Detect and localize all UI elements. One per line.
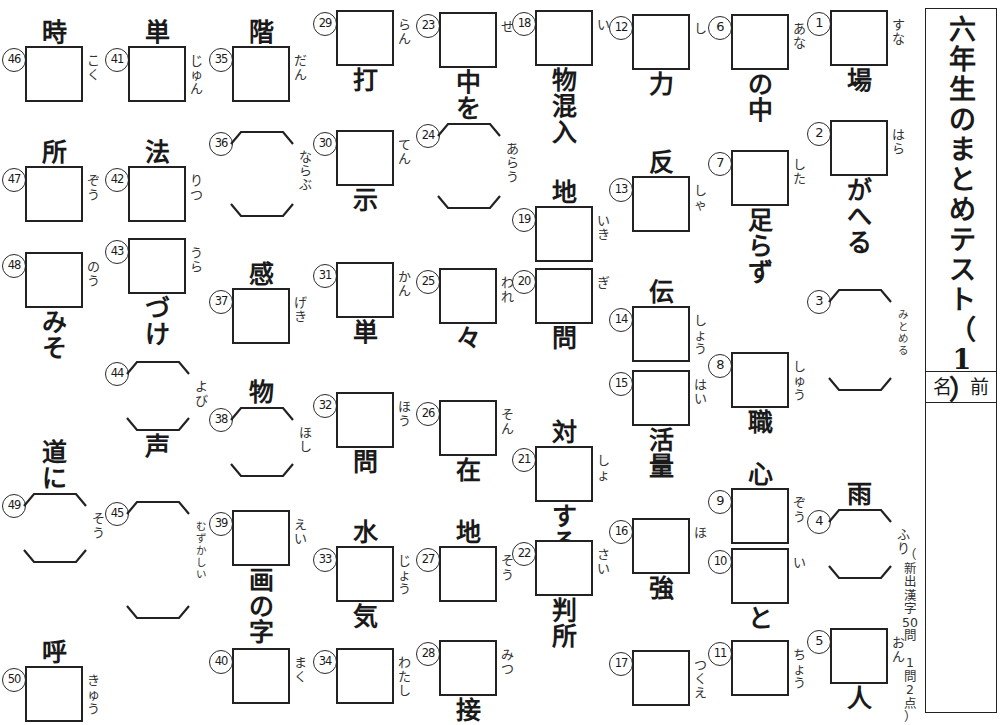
answer-box[interactable]: [731, 14, 789, 70]
reading-hint: じょう: [396, 554, 412, 596]
answer-bracket-bottom[interactable]: [229, 202, 295, 218]
reading-char: こ: [85, 54, 101, 68]
kanji-char: 階: [232, 20, 290, 46]
answer-box[interactable]: [632, 176, 690, 232]
answer-box[interactable]: [535, 446, 593, 502]
answer-box[interactable]: [232, 288, 290, 344]
answer-box[interactable]: [632, 14, 690, 70]
question-number: 48: [2, 254, 26, 278]
answer-box[interactable]: [336, 262, 394, 318]
prefix-kanji: 呼: [25, 640, 83, 666]
answer-box[interactable]: [439, 12, 497, 68]
answer-bracket-top[interactable]: [125, 360, 191, 376]
answer-bracket-bottom[interactable]: [827, 376, 893, 392]
answer-box[interactable]: [25, 252, 83, 308]
answer-box[interactable]: [336, 392, 394, 448]
reading-hint: てん: [396, 138, 412, 166]
answer-box[interactable]: [439, 268, 497, 324]
kanji-char: 場: [830, 68, 888, 94]
question-number: 5: [807, 630, 831, 654]
kanji-char: が: [830, 178, 888, 204]
answer-box[interactable]: [439, 546, 497, 602]
answer-bracket-top[interactable]: [436, 122, 502, 138]
answer-box[interactable]: [830, 10, 888, 66]
answer-box[interactable]: [128, 166, 186, 222]
answer-bracket-bottom[interactable]: [125, 416, 191, 432]
answer-bracket-top[interactable]: [827, 508, 893, 524]
kanji-char: の: [731, 72, 789, 98]
answer-box[interactable]: [632, 518, 690, 574]
question-number: 20: [512, 270, 536, 294]
answer-bracket-bottom[interactable]: [827, 564, 893, 580]
answer-bracket-bottom[interactable]: [229, 462, 295, 478]
answer-box[interactable]: [25, 666, 83, 722]
kanji-char: 呼: [25, 640, 83, 666]
answer-bracket-top[interactable]: [229, 406, 295, 422]
answer-box[interactable]: [128, 46, 186, 102]
prefix-kanji: 物: [232, 380, 290, 406]
answer-box[interactable]: [336, 130, 394, 186]
answer-bracket-top[interactable]: [125, 500, 191, 516]
answer-box[interactable]: [232, 46, 290, 102]
answer-box[interactable]: [128, 238, 186, 294]
suffix-kanji: 単: [336, 320, 394, 346]
suffix-kanji: がへる: [830, 178, 888, 256]
prefix-kanji: 時: [25, 20, 83, 46]
reading-char: と: [895, 320, 911, 332]
kanji-char: 示: [336, 188, 394, 214]
answer-box[interactable]: [439, 400, 497, 456]
answer-box[interactable]: [535, 540, 593, 596]
answer-box[interactable]: [830, 628, 888, 684]
reading-hint: きゅう: [85, 674, 101, 716]
question-number: 46: [2, 48, 26, 72]
answer-box[interactable]: [439, 640, 497, 696]
answer-box[interactable]: [632, 370, 690, 426]
answer-box[interactable]: [336, 546, 394, 602]
reading-hint: うら: [188, 246, 204, 274]
title-char: め: [926, 195, 998, 225]
scoring-note-char: 新: [901, 562, 919, 576]
answer-box[interactable]: [830, 120, 888, 176]
answer-box[interactable]: [632, 306, 690, 362]
answer-bracket-bottom[interactable]: [436, 194, 502, 210]
answer-box[interactable]: [731, 488, 789, 544]
answer-box[interactable]: [232, 648, 290, 704]
answer-box[interactable]: [25, 46, 83, 102]
name-field-label[interactable]: 名 前: [926, 371, 996, 403]
answer-bracket-bottom[interactable]: [22, 548, 88, 564]
question-number: 25: [416, 270, 440, 294]
scoring-note-char: 50: [901, 616, 919, 630]
question-column: 階35だん36ならぶ感37げき物38ほし39えい画の字40まく: [207, 0, 307, 721]
title-char: と: [926, 165, 998, 195]
scoring-note-char: 漢: [901, 589, 919, 603]
reading-char: く: [85, 68, 101, 82]
reading-hint: すな: [890, 18, 906, 46]
answer-bracket-top[interactable]: [827, 288, 893, 304]
answer-box[interactable]: [232, 510, 290, 566]
answer-box[interactable]: [731, 548, 789, 604]
answer-box[interactable]: [25, 166, 83, 222]
answer-box[interactable]: [731, 150, 789, 206]
question-column: 6あなの中7した足らず8しゅう職心9ぞう10いと11ちょう: [706, 0, 806, 721]
question-number: 33: [313, 548, 337, 572]
kanji-char: る: [830, 230, 888, 256]
kanji-char: 字: [232, 620, 290, 646]
answer-box[interactable]: [535, 268, 593, 324]
answer-box[interactable]: [336, 648, 394, 704]
reading-char: じ: [188, 54, 204, 68]
answer-box[interactable]: [731, 352, 789, 408]
answer-box[interactable]: [535, 206, 593, 262]
scoring-note-char: ）: [901, 710, 919, 724]
answer-box[interactable]: [731, 640, 789, 696]
answer-box[interactable]: [535, 10, 593, 66]
answer-bracket-top[interactable]: [22, 492, 88, 508]
question-number: 8: [708, 354, 732, 378]
answer-box[interactable]: [632, 650, 690, 706]
answer-bracket-top[interactable]: [229, 130, 295, 146]
prefix-kanji: 地: [439, 520, 497, 546]
kanji-char: 問: [336, 450, 394, 476]
suffix-kanji: づけ: [128, 296, 186, 348]
answer-bracket-bottom[interactable]: [125, 604, 191, 620]
answer-box[interactable]: [336, 10, 394, 66]
title-char: 六: [926, 15, 998, 45]
